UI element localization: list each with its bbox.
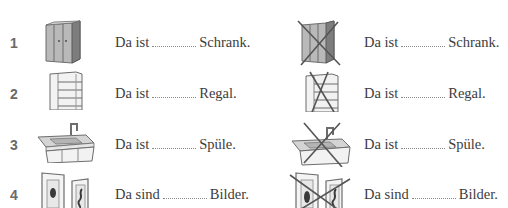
sentence-end: Bilder. [210, 186, 249, 202]
shelf-icon [48, 70, 84, 110]
sentence-start: Da ist [364, 85, 398, 101]
sentence-end: Spüle. [448, 136, 485, 152]
sentence-right: Da istRegal. [364, 85, 486, 102]
sentence-start: Da ist [364, 136, 398, 152]
exercise-row-2: 2 Da istRegal. Da istRegal. [0, 70, 508, 120]
sentence-end: Regal. [199, 85, 236, 101]
wardrobe-icon [42, 19, 84, 65]
exercise-row-4: 4 Da sindBilder. Da sindBilder. [0, 171, 508, 208]
pictures-crossed-icon [288, 171, 352, 208]
sentence-left: Da istSpüle. [115, 136, 236, 153]
sentence-end: Schrank. [448, 34, 499, 50]
sentence-start: Da sind [364, 186, 409, 202]
sentence-start: Da sind [115, 186, 160, 202]
sentence-end: Regal. [448, 85, 485, 101]
blank-input[interactable] [401, 45, 445, 47]
sentence-right: Da istSpüle. [364, 136, 485, 153]
sentence-left: Da sindBilder. [115, 186, 249, 203]
sentence-start: Da ist [364, 34, 398, 50]
row-number: 2 [10, 86, 24, 102]
sentence-left: Da istRegal. [115, 85, 237, 102]
pictures-icon [40, 171, 96, 208]
blank-input[interactable] [152, 45, 196, 47]
sentence-end: Schrank. [199, 34, 250, 50]
sentence-start: Da ist [115, 85, 149, 101]
previous-content-edge [0, 0, 508, 8]
blank-input[interactable] [401, 147, 445, 149]
sink-icon [36, 121, 96, 163]
row-number: 3 [10, 137, 24, 153]
blank-input[interactable] [163, 197, 207, 199]
blank-input[interactable] [401, 96, 445, 98]
exercise-row-3: 3 Da istSpüle. Da istSpüle. [0, 121, 508, 171]
sentence-right: Da istSchrank. [364, 34, 499, 51]
shelf-crossed-icon [304, 70, 340, 112]
sentence-start: Da ist [115, 34, 149, 50]
sentence-start: Da ist [115, 136, 149, 152]
sentence-left: Da istSchrank. [115, 34, 250, 51]
sentence-end: Spüle. [199, 136, 236, 152]
wardrobe-crossed-icon [296, 19, 344, 67]
row-number: 4 [10, 187, 24, 203]
sink-crossed-icon [290, 121, 352, 167]
blank-input[interactable] [412, 197, 456, 199]
sentence-right: Da sindBilder. [364, 186, 498, 203]
blank-input[interactable] [152, 147, 196, 149]
blank-input[interactable] [152, 96, 196, 98]
row-number: 1 [10, 35, 24, 51]
sentence-end: Bilder. [459, 186, 498, 202]
exercise-row-1: 1 Da istSchrank. Da istSchrank. [0, 19, 508, 69]
